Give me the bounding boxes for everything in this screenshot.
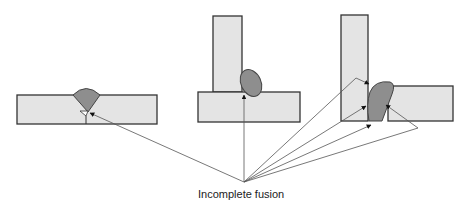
- corner-vertical-plate: [341, 15, 368, 121]
- corner-horizontal-plate: [388, 86, 453, 121]
- tee-web-plate: [213, 16, 242, 92]
- butt-joint: [17, 89, 157, 125]
- caption-label: Incomplete fusion: [198, 188, 284, 200]
- leader-corner-3: [244, 125, 371, 182]
- leader-butt: [90, 113, 244, 182]
- tee-joint: [198, 16, 300, 122]
- weld-defect-diagram: Incomplete fusion: [0, 0, 470, 203]
- tee-flange-plate: [198, 92, 300, 122]
- corner-joint: [341, 15, 453, 121]
